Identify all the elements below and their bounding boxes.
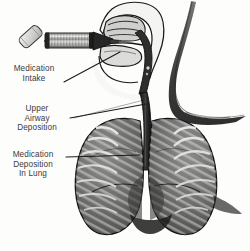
label-line: Deposition [2, 160, 64, 170]
tongue [100, 46, 142, 67]
label-line: Airway [4, 114, 70, 124]
label-line: Upper [4, 104, 70, 114]
label-upper-airway-deposition: Upper Airway Deposition [4, 104, 70, 133]
label-line: In Lung [2, 169, 64, 179]
label-line: Deposition [4, 123, 70, 133]
label-line: Medication [4, 64, 64, 74]
label-line: Intake [4, 74, 64, 84]
label-line: Medication [2, 150, 64, 160]
label-medication-deposition-in-lung: Medication Deposition In Lung [2, 150, 64, 179]
medication-deposition-diagram: Medication Intake Upper Airway Depositio… [0, 0, 250, 251]
label-medication-intake: Medication Intake [4, 64, 64, 83]
